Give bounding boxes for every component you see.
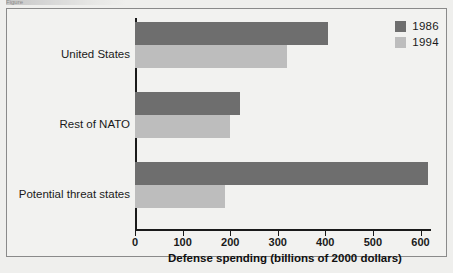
figure-container: Figure United States Rest of NATO Potent… [0,0,453,273]
x-tick-label-100: 100 [173,236,191,248]
category-label-0: United States [61,48,130,60]
bar-potential-threat-states-1994 [135,185,225,208]
x-tick-label-400: 400 [316,236,334,248]
cut-off-caption: Figure [6,0,126,5]
chart-legend: 1986 1994 [395,20,439,48]
legend-swatch-icon-1986 [395,21,406,32]
plot-area [135,18,430,225]
category-label-1: Rest of NATO [59,118,130,130]
bar-potential-threat-states-1986 [135,162,428,185]
x-tick-label-0: 0 [132,236,138,248]
x-axis-title: Defense spending (billions of 2000 dolla… [135,252,435,264]
category-axis-labels: United States Rest of NATO Potential thr… [8,18,130,225]
legend-label-1994: 1994 [412,36,439,48]
bar-united-states-1986 [135,22,328,45]
bar-united-states-1994 [135,45,287,68]
x-tick-label-300: 300 [269,236,287,248]
x-axis-line [135,229,431,231]
category-label-2: Potential threat states [19,188,130,200]
legend-item-1986: 1986 [395,20,439,32]
legend-label-1986: 1986 [412,20,439,32]
bar-rest-of-nato-1986 [135,92,240,115]
legend-item-1994: 1994 [395,36,439,48]
x-tick-label-200: 200 [221,236,239,248]
x-tick-label-600: 600 [411,236,429,248]
legend-swatch-icon-1994 [395,37,406,48]
bar-rest-of-nato-1994 [135,115,230,138]
x-tick-label-500: 500 [364,236,382,248]
